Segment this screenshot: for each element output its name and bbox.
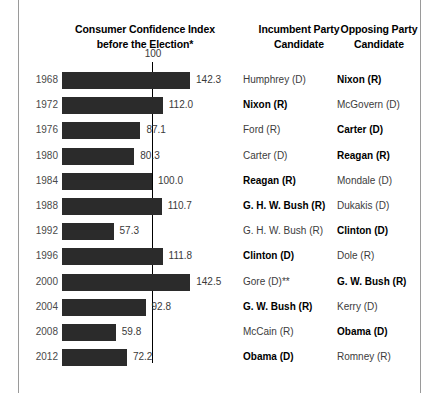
- chart-row: 200492.8G. W. Bush (R)Kerry (D): [0, 295, 437, 320]
- opposing-title-line-1: Opposing Party: [327, 22, 431, 37]
- bar-cci: [62, 324, 116, 341]
- opposing-candidate: Mondale (D): [337, 175, 433, 186]
- row-year-label: 1984: [22, 175, 58, 186]
- column-headers: Consumer Confidence Index before the Ele…: [0, 22, 437, 58]
- bar-value-label: 100.0: [158, 175, 183, 186]
- bar-cci: [62, 148, 134, 165]
- opposing-candidate: Romney (R): [337, 351, 433, 362]
- chart-row: 197687.1Ford (R)Carter (D): [0, 118, 437, 143]
- bar-cci: [62, 97, 163, 114]
- bar-cci: [62, 299, 146, 316]
- row-year-label: 1972: [22, 99, 58, 110]
- chart-row: 200859.8McCain (R)Obama (D): [0, 320, 437, 345]
- column-header-opposing-party: Opposing Party Candidate: [327, 22, 431, 51]
- reference-line-label: 100: [138, 48, 168, 59]
- chart-row: 1984100.0Reagan (R)Mondale (D): [0, 169, 437, 194]
- row-year-label: 2004: [22, 301, 58, 312]
- bar-value-label: 57.3: [120, 225, 139, 236]
- opposing-candidate: Reagan (R): [337, 150, 433, 161]
- bar-cci: [62, 72, 190, 89]
- chart-row: 1996111.8Clinton (D)Dole (R): [0, 244, 437, 269]
- bar-value-label: 111.8: [169, 250, 193, 261]
- opposing-title-line-2: Candidate: [327, 37, 431, 52]
- bar-value-label: 112.0: [169, 99, 193, 110]
- column-header-cci: Consumer Confidence Index before the Ele…: [30, 22, 260, 51]
- opposing-candidate: Dole (R): [337, 250, 433, 261]
- row-year-label: 1992: [22, 225, 58, 236]
- opposing-candidate: Dukakis (D): [337, 200, 433, 211]
- consumer-confidence-chart: Consumer Confidence Index before the Ele…: [0, 0, 437, 393]
- opposing-candidate: Clinton (D): [337, 225, 433, 236]
- row-year-label: 1980: [22, 150, 58, 161]
- opposing-candidate: Kerry (D): [337, 301, 433, 312]
- row-year-label: 2000: [22, 276, 58, 287]
- bar-cci: [62, 173, 152, 190]
- chart-row: 1988110.7G. H. W. Bush (R)Dukakis (D): [0, 194, 437, 219]
- opposing-candidate: McGovern (D): [337, 99, 433, 110]
- opposing-candidate: Nixon (R): [337, 74, 433, 85]
- bar-cci: [62, 122, 140, 139]
- opposing-candidate: Carter (D): [337, 124, 433, 135]
- bar-value-label: 142.3: [196, 74, 221, 85]
- bar-cci: [62, 349, 127, 366]
- bar-value-label: 87.1: [146, 124, 165, 135]
- chart-row: 1972112.0Nixon (R)McGovern (D): [0, 93, 437, 118]
- bar-value-label: 59.8: [122, 326, 141, 337]
- opposing-candidate: G. W. Bush (R): [337, 276, 433, 287]
- row-year-label: 1968: [22, 74, 58, 85]
- bar-value-label: 80.3: [140, 150, 159, 161]
- bar-value-label: 142.5: [196, 276, 221, 287]
- chart-row: 201272.2Obama (D)Romney (R): [0, 345, 437, 370]
- chart-row: 1968142.3Humphrey (D)Nixon (R): [0, 68, 437, 93]
- bar-value-label: 72.2: [133, 351, 152, 362]
- bar-cci: [62, 274, 190, 291]
- opposing-candidate: Obama (D): [337, 326, 433, 337]
- row-year-label: 2012: [22, 351, 58, 362]
- chart-row: 199257.3G. H. W. Bush (R)Clinton (D): [0, 219, 437, 244]
- bar-cci: [62, 223, 114, 240]
- bar-value-label: 92.8: [152, 301, 171, 312]
- row-year-label: 1996: [22, 250, 58, 261]
- bar-cci: [62, 248, 163, 265]
- bar-cci: [62, 198, 162, 215]
- row-year-label: 1976: [22, 124, 58, 135]
- chart-row: 198080.3Carter (D)Reagan (R): [0, 144, 437, 169]
- row-year-label: 1988: [22, 200, 58, 211]
- chart-row: 2000142.5Gore (D)**G. W. Bush (R): [0, 270, 437, 295]
- cci-title-line-1: Consumer Confidence Index: [30, 22, 260, 37]
- bar-value-label: 110.7: [168, 200, 192, 211]
- row-year-label: 2008: [22, 326, 58, 337]
